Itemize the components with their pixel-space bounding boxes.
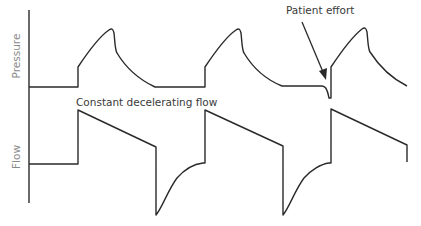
patient-effort-annotation: Patient effort	[286, 4, 354, 16]
flow-pattern-annotation: Constant decelerating flow	[76, 96, 218, 108]
patient-effort-arrow-icon	[302, 22, 327, 80]
flow-axis-label: Flow	[10, 145, 22, 169]
ventilator-waveform-diagram: Pressure Flow Constant decelerating flow…	[0, 0, 421, 226]
pressure-axis-label: Pressure	[10, 34, 22, 79]
flow-waveform	[29, 109, 407, 215]
pressure-waveform	[29, 28, 407, 98]
